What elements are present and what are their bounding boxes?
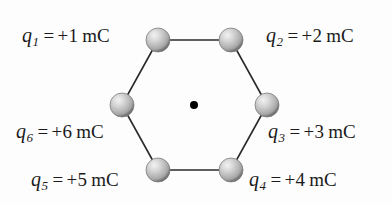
charge-equals-q4: = — [271, 169, 282, 190]
charge-sphere-q5 — [146, 158, 170, 182]
charge-equals-q6: = — [38, 121, 49, 142]
charge-subscript-q3: 3 — [278, 130, 285, 145]
charge-label-q4: q4=+4mC — [249, 168, 337, 194]
charge-unit-q4: mC — [309, 169, 337, 190]
charge-symbol-q6: q — [16, 120, 26, 142]
charge-subscript-q1: 1 — [32, 34, 39, 49]
charge-equals-q1: = — [44, 25, 55, 46]
charge-symbol-q2: q — [266, 24, 276, 46]
charge-label-q5: q5=+5mC — [31, 168, 119, 194]
charge-subscript-q6: 6 — [26, 130, 33, 145]
charge-value-q4: +4 — [285, 169, 306, 190]
charge-sphere-q6 — [110, 93, 134, 117]
charge-symbol-q3: q — [268, 120, 278, 142]
charge-unit-q3: mC — [328, 121, 356, 142]
charge-label-q3: q3=+3mC — [268, 120, 356, 146]
charge-subscript-q4: 4 — [259, 178, 266, 193]
charge-subscript-q2: 2 — [276, 34, 283, 49]
charge-value-q5: +5 — [67, 169, 88, 190]
charge-sphere-q1 — [146, 28, 170, 52]
charge-subscript-q5: 5 — [41, 178, 48, 193]
charge-value-q3: +3 — [304, 121, 325, 142]
charge-equals-q2: = — [288, 25, 299, 46]
center-point-dot — [190, 101, 198, 109]
charge-value-q2: +2 — [302, 25, 323, 46]
charge-symbol-q1: q — [22, 24, 32, 46]
charge-sphere-q2 — [219, 28, 243, 52]
charge-value-q1: +1 — [58, 25, 79, 46]
charge-unit-q6: mC — [76, 121, 104, 142]
charge-value-q6: +6 — [52, 121, 73, 142]
charge-unit-q5: mC — [91, 169, 119, 190]
charge-label-q6: q6=+6mC — [16, 120, 104, 146]
charge-label-q1: q1=+1mC — [22, 24, 110, 50]
charge-sphere-q3 — [255, 93, 279, 117]
charge-unit-q1: mC — [82, 25, 110, 46]
charge-label-q2: q2=+2mC — [266, 24, 354, 50]
charge-unit-q2: mC — [326, 25, 354, 46]
charge-hexagon-figure: q1=+1mC q2=+2mC q3=+3mC q4=+4mC q5=+5mC … — [0, 0, 392, 203]
charge-symbol-q4: q — [249, 168, 259, 190]
charge-symbol-q5: q — [31, 168, 41, 190]
charge-sphere-q4 — [219, 158, 243, 182]
charge-equals-q5: = — [53, 169, 64, 190]
charge-equals-q3: = — [290, 121, 301, 142]
